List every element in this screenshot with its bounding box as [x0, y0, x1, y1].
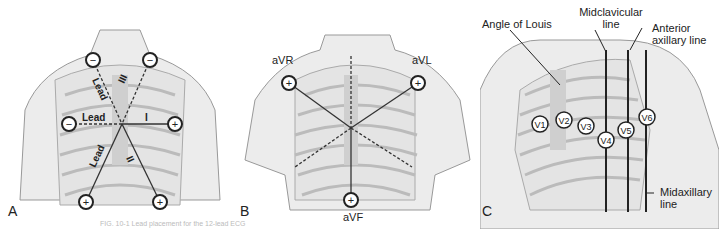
panel-label-a: A: [8, 203, 17, 219]
lead-label: Lead: [82, 112, 105, 123]
electrode-positive: +: [157, 196, 163, 208]
avl-label: aVL: [412, 54, 432, 66]
avr-label: aVR: [272, 54, 293, 66]
midclavicular-line-label: Midclavicular line: [576, 6, 646, 30]
electrode-negative: −: [90, 54, 96, 66]
panel-b: + + + aVR aVL aVF B: [240, 0, 480, 229]
electrode-positive: +: [348, 194, 354, 206]
electrode-v1: V1: [534, 120, 545, 130]
electrode-positive: +: [172, 118, 178, 130]
electrode-v2: V2: [558, 116, 569, 126]
panel-a: − − − + + + Lead Lead Lead I II III A: [0, 0, 240, 229]
electrode-v5: V5: [620, 126, 631, 136]
electrode-positive: +: [286, 77, 292, 89]
midaxillary-line-label: Midaxillary line: [660, 186, 719, 210]
electrode-positive: +: [83, 196, 89, 208]
electrode-negative: −: [147, 54, 153, 66]
avf-label: aVF: [343, 211, 363, 223]
panel-label-b: B: [240, 203, 249, 219]
angle-of-louis-label: Angle of Louis: [482, 18, 552, 30]
chest-limb-leads-illustration: − − − + + + Lead Lead Lead I II III: [0, 0, 240, 229]
electrode-v4: V4: [600, 136, 611, 146]
electrode-v6: V6: [641, 113, 652, 123]
augmented-leads-illustration: + + +: [240, 0, 480, 229]
panel-label-c: C: [482, 203, 492, 219]
lead-i-label: I: [145, 112, 148, 123]
electrode-v3: V3: [580, 122, 591, 132]
electrode-negative: −: [66, 118, 72, 130]
figure-caption: FIG. 10-1 Lead placement for the 12-lead…: [100, 220, 246, 227]
anterior-axillary-line-label: Anterior axillary line: [652, 22, 719, 46]
panel-c: V1 V2 V3 V4 V5 V6 Angle of Louis Midclav…: [480, 0, 719, 229]
electrode-positive: +: [415, 77, 421, 89]
